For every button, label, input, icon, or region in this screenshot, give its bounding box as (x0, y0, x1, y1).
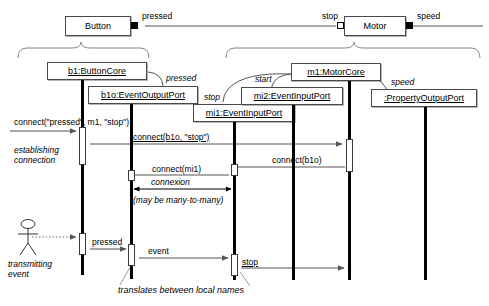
lifeline-label-pop: :PropertyOutputPort (384, 93, 464, 103)
activation-mi1-connect (231, 164, 238, 176)
brace-button (18, 42, 149, 58)
lifeline-label-m1: m1:MotorCore (307, 67, 365, 77)
lifeline-head-pop[interactable]: :PropertyOutputPort (371, 89, 477, 107)
activation-b1-transmit (79, 233, 86, 255)
role-label-stop: stop (204, 93, 220, 103)
component-motor-label: Motor (363, 21, 386, 31)
component-box-motor[interactable]: Motor (344, 16, 406, 36)
annotation-transmitting-event: transmitting event (8, 260, 52, 280)
activation-b1-connect (79, 127, 86, 165)
message-label-connexion: connexion (151, 178, 190, 188)
role-label-start: start (255, 75, 272, 85)
annotation-transmitting-line2: event (8, 270, 52, 280)
role-label-pressed: pressed (166, 74, 196, 84)
message-label-connect-b1o-stop: connect(b1o, "stop") (133, 133, 209, 143)
message-label-event: event (148, 247, 169, 257)
lifeline-head-b1[interactable]: b1:ButtonCore (47, 62, 147, 80)
message-label-pressed: pressed (92, 238, 122, 248)
message-label-connect-mi1: connect(mi1) (152, 165, 201, 175)
lifeline-label-b1o: b1o:EventOutputPort (101, 90, 185, 100)
lifeline-head-m1[interactable]: m1:MotorCore (291, 63, 381, 81)
lifeline-head-mi1[interactable]: mi1:EventInputPort (193, 104, 295, 122)
lifeline-head-mi2[interactable]: mi2:EventInputPort (241, 87, 343, 105)
message-label-connect-b1o: connect(b1o) (272, 156, 322, 166)
activation-m1-connect (346, 139, 353, 172)
port-label-speed-top: speed (417, 12, 440, 22)
component-box-button[interactable]: Button (65, 16, 131, 36)
lifeline-label-mi2: mi2:EventInputPort (254, 91, 331, 101)
role-label-speed: speed (391, 78, 414, 88)
message-label-stop: stop (242, 258, 258, 268)
annotation-translates-note: translates between local names (118, 285, 244, 295)
annotation-establishing-connection: establishing connection (14, 146, 59, 166)
lifeline-head-b1o[interactable]: b1o:EventOutputPort (88, 86, 198, 104)
activation-b1o-transmit (128, 244, 135, 266)
port-motor-speed[interactable] (406, 22, 413, 29)
port-motor-stop[interactable] (337, 22, 344, 29)
port-button-pressed[interactable] (131, 22, 138, 29)
message-label-connect-pressed: connect("pressed", m1, "stop") (14, 118, 129, 128)
activation-b1o-connect (128, 170, 135, 181)
lifeline-line-m1 (348, 81, 351, 280)
brace-motor (226, 42, 480, 58)
message-label-many-to-many: (may be many-to-many) (133, 196, 223, 206)
diagram-canvas: Button pressed stop Motor speed b1:Butto… (0, 0, 489, 306)
lifeline-label-mi1: mi1:EventInputPort (206, 108, 283, 118)
lifeline-line-mi2 (292, 105, 295, 280)
port-label-stop-top: stop (322, 12, 338, 22)
lifeline-label-b1: b1:ButtonCore (68, 66, 126, 76)
actor-figure (18, 220, 38, 256)
port-label-pressed: pressed (142, 12, 172, 22)
component-button-label: Button (85, 21, 111, 31)
activation-mi1-transmit (231, 254, 238, 276)
lifeline-line-pop (424, 107, 427, 280)
annotation-establishing-line2: connection (14, 156, 59, 166)
